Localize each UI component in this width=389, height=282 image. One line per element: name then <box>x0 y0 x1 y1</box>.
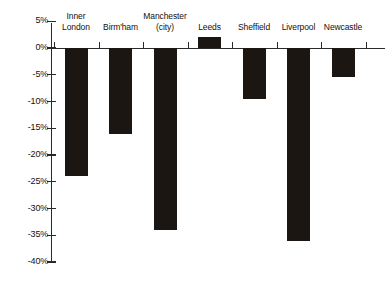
x-axis-tick <box>321 42 322 49</box>
bar <box>154 48 177 230</box>
bar <box>243 48 266 99</box>
y-axis-tick-label: -5% <box>33 70 48 79</box>
y-axis-tick-label: -40% <box>28 257 48 266</box>
y-axis-tick-label: 0% <box>35 43 48 52</box>
x-axis-tick <box>143 42 144 49</box>
y-axis-tick-label: -10% <box>28 97 48 106</box>
y-axis-tick <box>47 154 56 155</box>
y-axis-line <box>51 23 52 262</box>
y-axis-tick <box>47 21 56 22</box>
bar <box>65 48 88 176</box>
y-axis-tick <box>47 208 56 209</box>
x-axis-tick <box>366 42 367 49</box>
y-axis-tick <box>47 261 56 262</box>
bar <box>332 48 355 77</box>
y-axis-tick-label: -15% <box>28 123 48 132</box>
y-axis-tick-label: -30% <box>28 204 48 213</box>
x-axis-tick <box>232 42 233 49</box>
y-axis-tick <box>47 101 56 102</box>
bar <box>287 48 310 241</box>
y-axis-tick-label: -35% <box>28 230 48 239</box>
bar <box>109 48 132 134</box>
plot-area: 5%0%-5%-10%-15%-20%-25%-30%-35%-40% <box>0 0 389 282</box>
y-axis-tick <box>47 74 56 75</box>
y-axis-tick <box>47 235 56 236</box>
y-axis-tick-label: -20% <box>28 150 48 159</box>
y-axis-tick-label: -25% <box>28 177 48 186</box>
y-axis-tick <box>47 128 56 129</box>
x-axis-tick <box>54 42 55 49</box>
bar-chart: Inner LondonBirm'hamManchester (city)Lee… <box>0 0 389 282</box>
x-axis-tick <box>99 42 100 49</box>
y-axis-tick <box>47 181 56 182</box>
y-axis-tick-label: 5% <box>35 16 48 25</box>
bar <box>198 37 221 48</box>
x-axis-tick <box>277 42 278 49</box>
x-axis-tick <box>188 42 189 49</box>
